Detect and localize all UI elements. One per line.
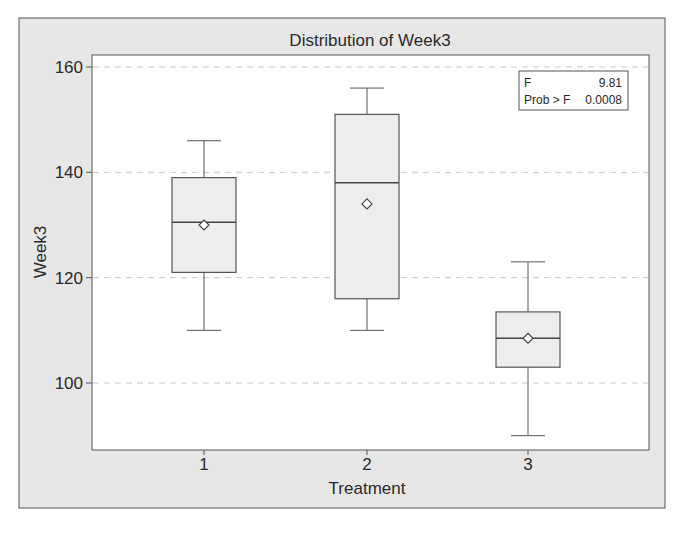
- stat-f-label: F: [524, 76, 531, 90]
- stat-prob-value: 0.0008: [585, 93, 622, 107]
- y-tick-label: 100: [55, 374, 83, 393]
- y-tick-label: 160: [55, 58, 83, 77]
- y-tick-label: 120: [55, 269, 83, 288]
- x-tick-label: 1: [199, 455, 208, 474]
- x-axis-label: Treatment: [329, 479, 406, 498]
- y-tick-label: 140: [55, 163, 83, 182]
- chart-title: Distribution of Week3: [289, 31, 450, 50]
- stat-f-value: 9.81: [599, 76, 623, 90]
- box-plot-chart: Distribution of Week3 100120140160 Week3…: [0, 0, 682, 534]
- box-group-2: [335, 88, 399, 330]
- stat-prob-label: Prob > F: [524, 93, 570, 107]
- x-tick-label: 2: [362, 455, 371, 474]
- x-tick-label: 3: [523, 455, 532, 474]
- y-axis-label: Week3: [31, 226, 50, 279]
- stats-inset: F 9.81 Prob > F 0.0008: [519, 71, 628, 110]
